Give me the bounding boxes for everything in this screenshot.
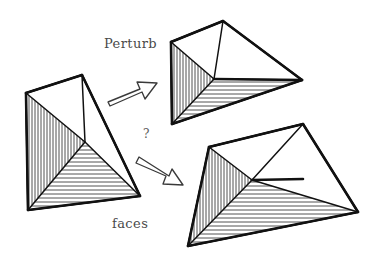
diagram-figure: Perturb faces ?	[0, 0, 384, 265]
diagram-canvas: Perturb faces ?	[0, 0, 384, 265]
perturbed-top-edge-left-vertical	[171, 42, 172, 124]
perturbed-tetrahedron-bottom	[182, 124, 368, 253]
perturb-label: Perturb	[104, 36, 157, 51]
arrow-down-right-icon	[136, 157, 183, 185]
arrow-up-right-icon	[108, 82, 157, 106]
question-mark-label: ?	[143, 127, 149, 141]
perturbed-tetrahedron-top	[165, 21, 310, 132]
perturbed-top-edge-ridge	[214, 79, 302, 80]
faces-label: faces	[112, 216, 148, 231]
perturbed-bottom-edge-ridge	[252, 179, 303, 180]
